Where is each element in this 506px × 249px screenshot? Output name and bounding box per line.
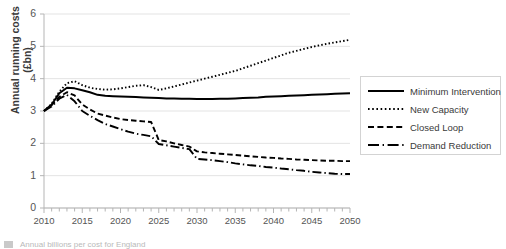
x-tick-label: 2030	[176, 215, 218, 226]
legend-key-dashdot-icon	[366, 139, 406, 151]
caption-marker-icon	[4, 241, 13, 248]
legend-label-new-capacity: New Capacity	[410, 104, 469, 115]
series-line-new-capacity	[44, 40, 350, 111]
legend-item-closed-loop[interactable]: Closed Loop	[361, 118, 500, 136]
legend-item-minimum-intervention[interactable]: Minimum Intervention	[361, 82, 500, 100]
series-line-minimum-intervention	[44, 88, 350, 111]
chart-container: Annual running costs (£bn) 0123456 20102…	[0, 0, 506, 249]
legend-key-dashed-icon	[366, 121, 406, 133]
y-tick-label: 6	[14, 7, 36, 19]
legend-item-new-capacity[interactable]: New Capacity	[361, 100, 500, 118]
y-tick-label: 2	[14, 136, 36, 148]
x-tick-label: 2010	[23, 215, 65, 226]
x-tick-label: 2025	[138, 215, 180, 226]
x-tick-label: 2015	[61, 215, 103, 226]
y-tick-label: 5	[14, 39, 36, 51]
caption-text: Annual billions per cost for England	[20, 240, 145, 249]
figure-caption: Annual billions per cost for England	[0, 240, 506, 249]
y-tick-label: 3	[14, 104, 36, 116]
chart-legend: Minimum Intervention New Capacity Closed…	[360, 76, 501, 155]
x-tick-label: 2040	[253, 215, 295, 226]
legend-item-demand-reduction[interactable]: Demand Reduction	[361, 136, 500, 154]
x-tick-label: 2050	[329, 215, 371, 226]
series-line-closed-loop	[44, 92, 350, 161]
legend-label-closed-loop: Closed Loop	[410, 122, 463, 133]
series-line-demand-reduction	[44, 95, 350, 174]
legend-label-demand-reduction: Demand Reduction	[410, 140, 491, 151]
legend-key-dotted-icon	[366, 103, 406, 115]
legend-key-solid-icon	[366, 85, 406, 97]
legend-label-minimum-intervention: Minimum Intervention	[410, 86, 501, 97]
x-tick-label: 2020	[100, 215, 142, 226]
y-tick-label: 0	[14, 201, 36, 213]
y-tick-label: 1	[14, 169, 36, 181]
x-tick-label: 2035	[214, 215, 256, 226]
y-tick-label: 4	[14, 72, 36, 84]
x-tick-label: 2045	[291, 215, 333, 226]
